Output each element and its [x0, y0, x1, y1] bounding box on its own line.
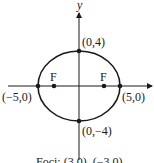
label-right-vertex: (5,0): [122, 90, 145, 104]
ellipse-diagram: y (0,4) (0,−4) (−5,0) (5,0) F F Foci: (3…: [0, 0, 154, 163]
focus-right-point: [102, 84, 107, 89]
vertex-top-point: [77, 49, 82, 54]
y-axis-label: y: [76, 0, 83, 12]
label-top-vertex: (0,4): [82, 35, 105, 49]
label-left-vertex: (−5,0): [2, 90, 32, 104]
foci-caption: Foci: (3,0), (−3,0): [36, 155, 122, 163]
label-focus-right: F: [100, 70, 107, 84]
vertex-right-point: [118, 84, 123, 89]
vertex-bottom-point: [77, 119, 82, 124]
label-bottom-vertex: (0,−4): [82, 124, 112, 138]
focus-left-point: [52, 84, 57, 89]
label-focus-left: F: [50, 70, 57, 84]
vertex-left-point: [36, 84, 41, 89]
